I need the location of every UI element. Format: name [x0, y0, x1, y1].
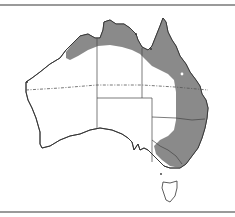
australia-distribution-map — [0, 0, 235, 217]
island-marker — [150, 48, 152, 50]
island-marker — [135, 33, 137, 35]
island-marker — [26, 81, 28, 83]
tasmania — [162, 181, 177, 202]
island-marker — [160, 173, 162, 175]
locality-marker — [181, 73, 184, 76]
